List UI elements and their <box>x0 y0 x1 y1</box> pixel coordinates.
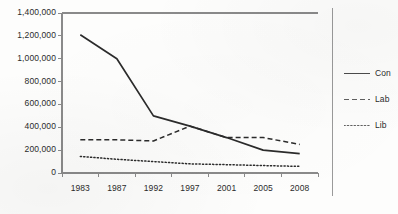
x-tick-label: 1992 <box>136 183 170 193</box>
x-tick-label: 1997 <box>173 183 207 193</box>
x-tick-label: 2001 <box>210 183 244 193</box>
y-tick-label: 600,000 <box>4 98 56 108</box>
chart-figure: 0200,000400,000600,000800,0001,000,0001,… <box>0 0 398 214</box>
legend-label: Lab <box>375 93 389 105</box>
y-tick-label: 800,000 <box>4 76 56 86</box>
legend-label: Lib <box>375 119 387 131</box>
y-tick-label: 1,200,000 <box>4 30 56 40</box>
y-tick-label: 1,400,000 <box>4 7 56 17</box>
y-tick-label: 200,000 <box>4 144 56 154</box>
series-line-lib <box>80 156 299 166</box>
chart-axes <box>62 13 318 173</box>
legend-label: Con <box>375 67 391 79</box>
x-tick-label: 1983 <box>63 183 97 193</box>
series-line-con <box>80 35 299 154</box>
legend-swatch-dashed <box>344 98 370 100</box>
series-line-lab <box>80 126 299 144</box>
x-tick-label: 1987 <box>100 183 134 193</box>
x-tick-label: 2005 <box>246 183 280 193</box>
y-tick-label: 0 <box>4 167 56 177</box>
x-tick-label: 2008 <box>283 183 317 193</box>
legend-swatch-solid <box>344 72 370 74</box>
y-tick-label: 1,000,000 <box>4 53 56 63</box>
legend-swatch-dotted <box>344 124 370 126</box>
chart-series-lines <box>80 35 299 167</box>
line-chart-plot <box>0 0 398 214</box>
y-tick-label: 400,000 <box>4 121 56 131</box>
